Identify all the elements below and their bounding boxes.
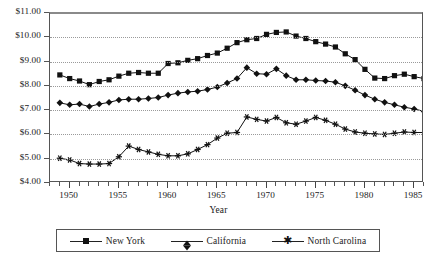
data-point <box>67 76 72 81</box>
data-point <box>303 118 309 123</box>
x-axis-minor-tick <box>108 182 109 186</box>
x-axis-major-tick <box>167 182 168 188</box>
data-point <box>146 71 151 76</box>
data-point <box>135 147 141 152</box>
series-line <box>60 32 422 85</box>
x-axis-minor-tick <box>334 182 335 186</box>
gridline <box>50 86 422 87</box>
data-point <box>392 73 397 78</box>
x-axis-minor-tick <box>325 182 326 186</box>
x-axis-title: Year <box>0 205 437 215</box>
data-point <box>421 108 422 115</box>
y-axis: $4.00$5.00$6.00$7.00$8.00$9.00$10.00$11.… <box>0 0 49 194</box>
series-line <box>60 117 422 164</box>
x-axis-minor-tick <box>393 182 394 186</box>
data-point <box>362 92 369 99</box>
data-point <box>343 51 348 56</box>
x-axis-tick-label: 1960 <box>158 191 177 200</box>
gridline <box>50 159 422 160</box>
data-point <box>273 115 279 120</box>
data-point <box>352 87 359 94</box>
data-point <box>136 70 141 75</box>
data-point <box>155 94 162 101</box>
data-point <box>126 71 131 76</box>
x-axis-major-tick <box>266 182 267 188</box>
square-marker-icon <box>70 235 102 246</box>
star-marker-icon: ✱ <box>272 235 304 246</box>
data-point <box>97 79 102 84</box>
legend-item-new-york[interactable]: New York <box>70 235 145 246</box>
data-point <box>382 76 387 81</box>
legend-label: California <box>207 236 247 246</box>
data-point <box>412 74 417 79</box>
data-point <box>195 56 200 61</box>
data-point <box>263 71 270 78</box>
data-point <box>274 30 279 35</box>
data-point <box>66 102 73 109</box>
x-axis-tick-label: 1965 <box>207 191 226 200</box>
legend-item-california[interactable]: California <box>171 235 247 246</box>
x-axis-minor-tick <box>177 182 178 186</box>
y-axis-tick-label: $9.00 <box>20 56 41 65</box>
data-point <box>86 161 92 166</box>
legend-item-north-carolina[interactable]: ✱ North Carolina <box>272 235 367 246</box>
data-point <box>283 120 289 125</box>
y-axis-tick-label: $8.00 <box>20 80 41 89</box>
data-point <box>106 99 113 106</box>
data-point <box>333 44 338 49</box>
data-point <box>116 74 121 79</box>
data-point <box>194 88 201 95</box>
x-axis-minor-tick <box>197 182 198 186</box>
y-axis-tick-label: $6.00 <box>20 129 41 138</box>
data-point <box>362 67 367 72</box>
data-point <box>253 70 260 77</box>
x-axis-minor-tick <box>147 182 148 186</box>
data-point <box>215 50 220 55</box>
data-point <box>411 106 418 113</box>
data-point <box>205 53 210 58</box>
diamond-marker-icon <box>171 235 203 246</box>
x-axis-major-tick <box>315 182 316 188</box>
y-axis-tick-label: $10.00 <box>15 32 41 41</box>
data-point <box>96 101 103 108</box>
x-axis-minor-tick <box>256 182 257 186</box>
x-axis-minor-tick <box>138 182 139 186</box>
x-axis-minor-tick <box>354 182 355 186</box>
gridline <box>50 62 422 63</box>
data-point <box>313 115 319 120</box>
x-axis-major-tick <box>216 182 217 188</box>
x-axis-minor-tick <box>88 182 89 186</box>
x-axis-minor-tick <box>246 182 247 186</box>
data-point <box>76 101 83 108</box>
x-axis-minor-tick <box>206 182 207 186</box>
data-point <box>402 72 407 77</box>
data-point <box>106 77 111 82</box>
data-point <box>135 96 142 103</box>
chart-page: $4.00$5.00$6.00$7.00$8.00$9.00$10.00$11.… <box>0 0 437 260</box>
data-point <box>165 92 172 99</box>
data-point <box>342 126 348 131</box>
data-point <box>332 79 339 86</box>
x-axis-tick-label: 1970 <box>256 191 275 200</box>
data-point <box>185 151 191 156</box>
data-point <box>76 161 82 166</box>
x-axis-minor-tick <box>187 182 188 186</box>
x-axis-tick-label: 1980 <box>355 191 374 200</box>
data-point <box>96 161 102 166</box>
series-line <box>60 68 422 112</box>
data-point <box>57 72 62 77</box>
data-point <box>284 29 289 34</box>
data-point <box>156 71 161 76</box>
data-point <box>175 153 181 158</box>
data-point <box>371 96 378 103</box>
x-axis-tick-label: 1985 <box>404 191 423 200</box>
x-axis-minor-tick <box>305 182 306 186</box>
chart-legend: New York California ✱ North Carolina <box>56 229 380 252</box>
data-point <box>175 90 182 97</box>
data-point <box>263 118 269 123</box>
x-axis-minor-tick <box>344 182 345 186</box>
x-axis-major-tick <box>413 182 414 188</box>
data-point <box>283 72 290 79</box>
x-axis-minor-tick <box>226 182 227 186</box>
gridline <box>50 110 422 111</box>
